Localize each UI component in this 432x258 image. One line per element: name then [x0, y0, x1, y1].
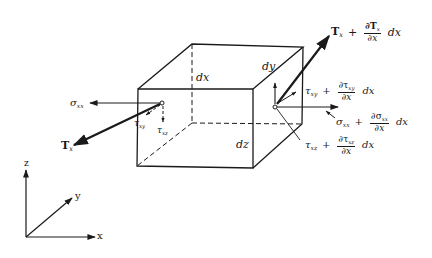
label-traction-tx: Tx [61, 140, 73, 153]
label-sigma-xx: σxx [70, 98, 84, 109]
top-face-edges [138, 44, 303, 89]
sigma-xx-plus-pointer [326, 111, 335, 118]
edge-label-dy: dy [262, 61, 275, 72]
edge-label-dx: dx [196, 72, 209, 83]
label-tau-xy: τxy [134, 119, 145, 129]
front-face [137, 89, 253, 168]
label-tau-xz: τxz [157, 126, 168, 136]
y-axis [26, 198, 72, 237]
axis-label-x: x [97, 231, 103, 241]
left-face-vectors [74, 101, 164, 145]
coordinate-axes [26, 170, 95, 237]
left-face-point [160, 101, 164, 105]
edge-label-dz: dz [236, 139, 249, 150]
label-tau-xy-plus: τxy + ∂τxy∂x dx [305, 81, 375, 102]
axis-label-z: z [24, 159, 29, 168]
differential-element [137, 44, 303, 168]
stress-element-diagram: dx dy dz σxx τxy τxz Tx Tx + ∂Tx∂x dx τx… [0, 0, 432, 258]
label-sigma-xx-plus: σxx + ∂σxx∂x dx [336, 112, 408, 133]
right-face-point [273, 105, 277, 109]
label-traction-tx-plus: Tx + ∂Tx∂x dx [331, 22, 401, 43]
tx-arrow [74, 104, 160, 145]
label-tau-xz-plus: τxz + ∂τxz∂x dx [305, 135, 374, 156]
hidden-edge-back-bottom [192, 123, 302, 124]
axis-label-y: y [75, 191, 81, 201]
